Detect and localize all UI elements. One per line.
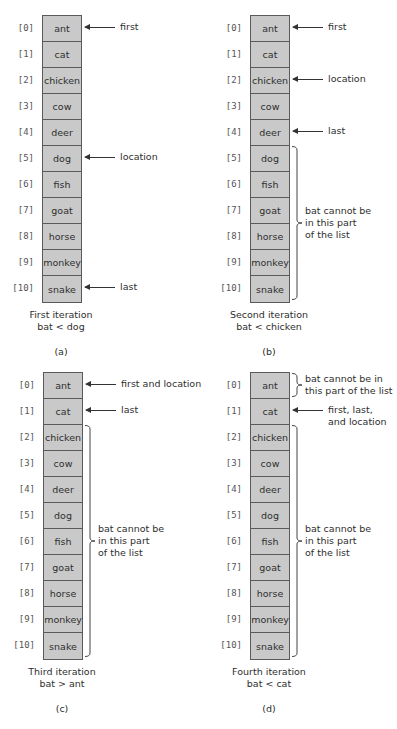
pointer-location: location xyxy=(293,73,366,85)
arrow-left-icon xyxy=(85,287,115,288)
pointer-label: first, last, and location xyxy=(328,404,387,428)
index-label: [3] xyxy=(4,101,34,111)
index-label: [5] xyxy=(4,153,34,163)
index-label: [8] xyxy=(4,231,34,241)
index-label: [7] xyxy=(5,562,35,572)
index-label: [2] xyxy=(212,432,242,442)
pointer-label: first and location xyxy=(121,378,201,390)
index-label: [0] xyxy=(212,380,242,390)
array-cell: fish xyxy=(43,172,81,198)
iteration-caption: Second iteration bat < chicken xyxy=(209,309,329,333)
pointer-label: first xyxy=(328,21,347,33)
array-cell: monkey xyxy=(44,607,82,633)
pointer-first: first xyxy=(85,21,139,33)
array-cell: goat xyxy=(43,198,81,224)
index-label: [8] xyxy=(212,231,242,241)
array-cell: snake xyxy=(251,276,289,302)
array-cell: dog xyxy=(251,146,289,172)
array-cell: deer xyxy=(251,477,289,503)
panel-sublabel: (b) xyxy=(249,346,289,357)
array-cell: snake xyxy=(43,276,81,302)
index-label: [5] xyxy=(212,153,242,163)
index-label: [3] xyxy=(212,458,242,468)
panel-sublabel: (c) xyxy=(42,703,82,714)
index-label: [1] xyxy=(212,49,242,59)
arrow-left-icon xyxy=(85,27,115,28)
pointer-label: first xyxy=(120,21,139,33)
array-cell: ant xyxy=(44,373,82,399)
index-label: [2] xyxy=(5,432,35,442)
index-label: [3] xyxy=(5,458,35,468)
array-cell: horse xyxy=(44,581,82,607)
exclusion-note: bat cannot be in this part of the list xyxy=(305,523,371,559)
index-label: [6] xyxy=(5,536,35,546)
iteration-caption: Fourth iteration bat < cat xyxy=(209,666,329,690)
pointer-label: last xyxy=(120,281,137,293)
index-label: [0] xyxy=(5,380,35,390)
index-label: [5] xyxy=(212,510,242,520)
array-cell: deer xyxy=(43,120,81,146)
arrow-left-icon xyxy=(85,157,115,158)
index-label: [5] xyxy=(5,510,35,520)
array-cell: fish xyxy=(251,529,289,555)
arrow-left-icon xyxy=(293,79,323,80)
index-label: [0] xyxy=(212,23,242,33)
array-cell: monkey xyxy=(251,607,289,633)
index-label: [2] xyxy=(4,75,34,85)
iteration-caption: Third iteration bat > ant xyxy=(2,666,122,690)
array-cell: cow xyxy=(43,94,81,120)
array-cell: cat xyxy=(43,42,81,68)
array-cell: ant xyxy=(251,16,289,42)
index-label: [2] xyxy=(212,75,242,85)
arrow-left-icon xyxy=(293,27,323,28)
pointer-first-last-and-location: first, last, and location xyxy=(293,404,387,428)
pointer-label: last xyxy=(328,125,345,137)
iteration-caption: First iteration bat < dog xyxy=(1,309,121,333)
array-cell: dog xyxy=(44,503,82,529)
exclusion-note: bat cannot be in this part of the list xyxy=(305,373,393,397)
index-label: [3] xyxy=(212,101,242,111)
panel-sublabel: (d) xyxy=(249,703,289,714)
index-label: [0] xyxy=(4,23,34,33)
array-cell: snake xyxy=(44,633,82,659)
index-label: [10] xyxy=(212,640,242,650)
index-label: [4] xyxy=(5,484,35,494)
index-label: [1] xyxy=(212,406,242,416)
pointer-label: location xyxy=(120,151,158,163)
array-cell: horse xyxy=(251,224,289,250)
index-label: [7] xyxy=(212,205,242,215)
arrow-left-icon xyxy=(86,410,116,411)
arrow-left-icon xyxy=(293,410,323,411)
index-label: [4] xyxy=(4,127,34,137)
array-cell: cow xyxy=(251,451,289,477)
array-cell: goat xyxy=(251,555,289,581)
index-label: [6] xyxy=(212,179,242,189)
pointer-last: last xyxy=(293,125,345,137)
array-cell: fish xyxy=(251,172,289,198)
array-cell: horse xyxy=(43,224,81,250)
exclusion-note: bat cannot be in this part of the list xyxy=(305,205,371,241)
index-label: [6] xyxy=(4,179,34,189)
index-label: [7] xyxy=(212,562,242,572)
array-column: antcatchickencowdeerdogfishgoathorsemonk… xyxy=(43,372,83,660)
array-cell: fish xyxy=(44,529,82,555)
index-label: [9] xyxy=(4,257,34,267)
index-label: [8] xyxy=(5,588,35,598)
array-cell: deer xyxy=(44,477,82,503)
brace-icon xyxy=(291,425,305,657)
index-label: [9] xyxy=(212,257,242,267)
array-cell: monkey xyxy=(43,250,81,276)
index-label: [4] xyxy=(212,484,242,494)
pointer-first: first xyxy=(293,21,347,33)
index-label: [6] xyxy=(212,536,242,546)
index-label: [1] xyxy=(5,406,35,416)
index-label: [9] xyxy=(5,614,35,624)
brace-icon xyxy=(291,373,305,397)
array-cell: deer xyxy=(251,120,289,146)
index-label: [1] xyxy=(4,49,34,59)
exclusion-note: bat cannot be in this part of the list xyxy=(98,523,164,559)
brace-icon xyxy=(291,146,305,300)
pointer-location: location xyxy=(85,151,158,163)
array-cell: cat xyxy=(251,399,289,425)
pointer-label: location xyxy=(328,73,366,85)
